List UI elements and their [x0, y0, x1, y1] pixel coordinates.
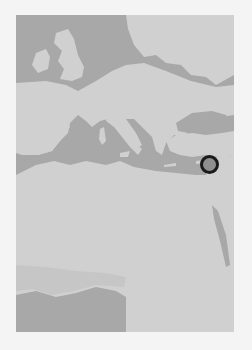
map-view[interactable]	[16, 15, 234, 332]
location-marker[interactable]	[200, 155, 219, 174]
map-canvas[interactable]	[16, 15, 234, 332]
